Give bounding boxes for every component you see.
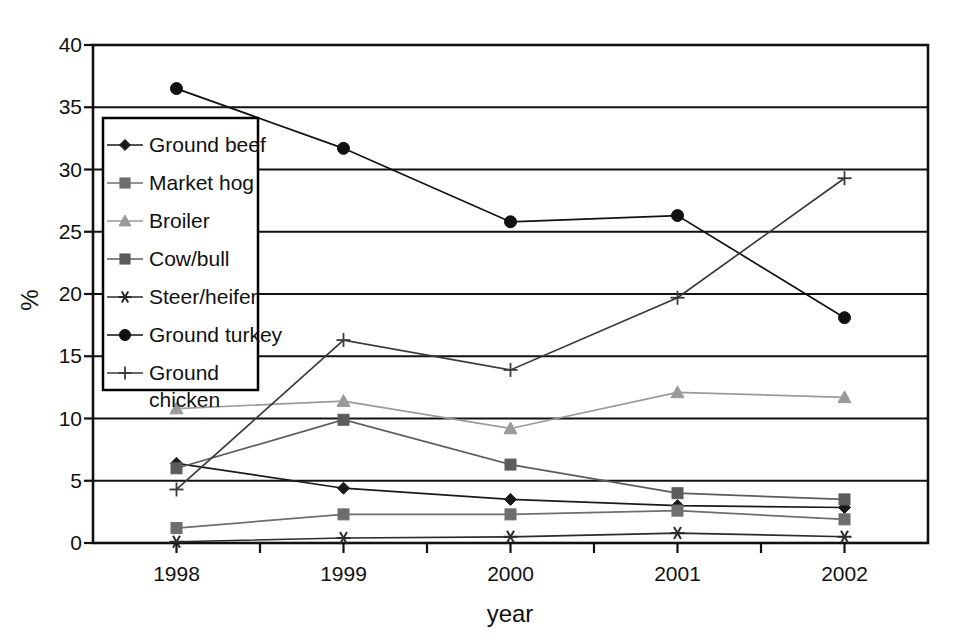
data-point-marker xyxy=(505,459,516,470)
data-point-marker xyxy=(338,509,349,520)
data-point-marker xyxy=(505,493,517,505)
line-chart: % 0510152025303540 19981999200020012002 … xyxy=(0,0,964,642)
y-tick-label: 25 xyxy=(59,220,82,243)
data-point-marker xyxy=(672,505,683,516)
x-tick-label: 1998 xyxy=(153,562,200,585)
y-tick-label: 40 xyxy=(59,33,82,56)
data-point-marker xyxy=(171,463,182,474)
chart-legend: Ground beefMarket hogBroilerCow/bullStee… xyxy=(103,118,283,411)
chart-canvas: % 0510152025303540 19981999200020012002 … xyxy=(0,0,964,642)
data-point-marker xyxy=(119,329,130,340)
y-tick-label: 35 xyxy=(59,95,82,118)
y-tick-label: 30 xyxy=(59,158,82,181)
legend-label: Ground turkey xyxy=(149,323,283,346)
x-tick-label: 1999 xyxy=(320,562,367,585)
data-point-marker xyxy=(672,210,684,222)
data-point-marker xyxy=(671,527,685,539)
legend-label: Ground xyxy=(149,361,219,384)
y-tick-label: 10 xyxy=(59,407,82,430)
y-tick-label: 20 xyxy=(59,282,82,305)
legend-label: Market hog xyxy=(149,171,254,194)
series-market-hog xyxy=(171,505,850,533)
y-tick-labels: 0510152025303540 xyxy=(59,33,82,554)
x-tick-labels: 19981999200020012002 xyxy=(153,562,868,585)
series-line xyxy=(177,89,845,318)
data-point-marker xyxy=(120,178,130,188)
data-point-marker xyxy=(120,254,130,264)
data-point-marker xyxy=(505,509,516,520)
legend-label-line2: chicken xyxy=(149,388,220,411)
legend-label: Steer/heifer xyxy=(149,285,258,308)
data-point-marker xyxy=(505,216,517,228)
data-point-marker xyxy=(338,414,349,425)
y-tick-label: 0 xyxy=(70,531,82,554)
data-point-marker xyxy=(171,83,183,95)
x-tick-label: 2001 xyxy=(654,562,701,585)
legend-label: Broiler xyxy=(149,209,210,232)
data-point-marker xyxy=(672,488,683,499)
y-axis-title: % xyxy=(16,289,43,310)
x-tick-marks xyxy=(177,543,845,553)
y-axis-group: % 0510152025303540 xyxy=(16,33,93,554)
x-tick-label: 2000 xyxy=(487,562,534,585)
series-ground-turkey xyxy=(171,83,851,324)
data-point-marker xyxy=(504,531,518,543)
legend-label: Ground beef xyxy=(149,133,266,156)
data-point-marker xyxy=(338,482,350,494)
y-tick-label: 15 xyxy=(59,344,82,367)
x-axis-title: year xyxy=(487,600,534,627)
x-axis-group: 19981999200020012002 year xyxy=(153,543,868,627)
data-point-marker xyxy=(504,363,518,377)
data-point-marker xyxy=(839,494,850,505)
data-point-marker xyxy=(839,514,850,525)
legend-label: Cow/bull xyxy=(149,247,230,270)
data-point-marker xyxy=(838,531,852,543)
data-point-marker xyxy=(839,312,851,324)
data-point-marker xyxy=(671,291,685,305)
series-broiler xyxy=(170,386,851,434)
data-point-marker xyxy=(338,142,350,154)
y-tick-marks xyxy=(84,45,93,543)
data-point-marker xyxy=(171,523,182,534)
data-series-group xyxy=(170,83,852,548)
y-tick-label: 5 xyxy=(70,469,82,492)
data-point-marker xyxy=(838,171,852,185)
x-tick-label: 2002 xyxy=(821,562,868,585)
